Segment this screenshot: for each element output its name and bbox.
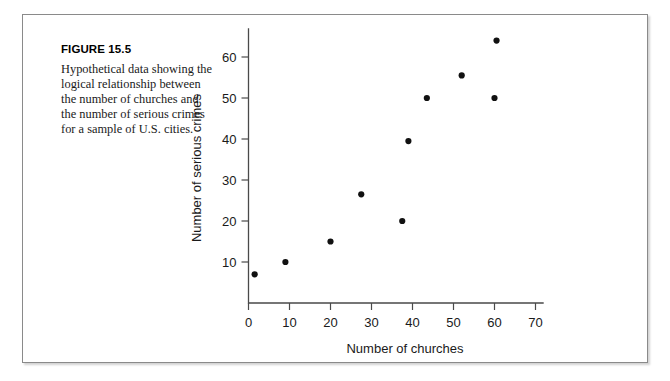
figure-caption-block: FIGURE 15.5 Hypothetical data showing th… xyxy=(61,43,213,137)
figure-frame: FIGURE 15.5 Hypothetical data showing th… xyxy=(22,14,648,363)
figure-page: FIGURE 15.5 Hypothetical data showing th… xyxy=(0,0,670,381)
figure-number-label: FIGURE 15.5 xyxy=(61,43,213,55)
figure-caption-text: Hypothetical data showing the logical re… xyxy=(61,62,213,137)
